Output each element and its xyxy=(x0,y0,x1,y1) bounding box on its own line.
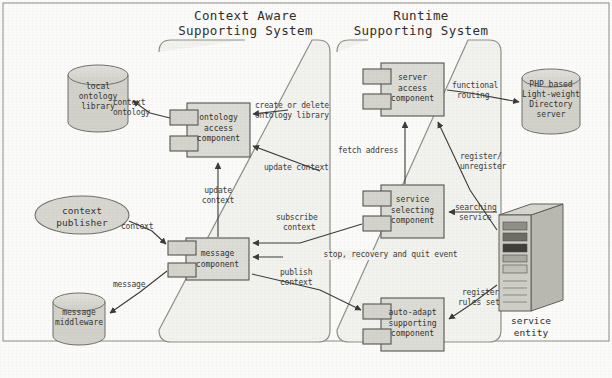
comp-line3: component xyxy=(391,94,434,103)
store-line2: Light-weight xyxy=(522,90,580,99)
store-line4: server xyxy=(537,110,566,119)
actor-context-publisher-label: contextpublisher xyxy=(40,205,124,229)
edge-label-create-or-delete-ontology-library: create or deleteontology library xyxy=(255,101,339,121)
comp-line2: access xyxy=(398,84,427,93)
edge-line1: create or delete xyxy=(255,101,329,110)
edge-line2: context xyxy=(280,278,312,287)
edge-line2: ontology library xyxy=(255,111,329,120)
edge-line1: stop, recovery and quit event xyxy=(324,250,458,259)
actor-line2: entity xyxy=(514,327,548,338)
edge-line1: subscribe xyxy=(276,213,318,222)
comp-line2: component xyxy=(196,260,239,269)
edge-label-context: context xyxy=(121,222,167,232)
edge-line1: functional xyxy=(452,81,498,90)
edge-label-update-context-vertical: updatecontext xyxy=(190,186,246,206)
edge-label-update-context-right: update context xyxy=(264,163,340,173)
edge-line2: ontology xyxy=(113,108,150,117)
edge-line2: rules set xyxy=(458,298,500,307)
comp-line3: component xyxy=(391,216,434,225)
edge-line1: update xyxy=(204,186,232,195)
edge-label-message: message xyxy=(113,280,159,290)
edge-line1: update context xyxy=(264,163,329,172)
panel-title-line1: Context Aware xyxy=(194,8,297,23)
comp-line1: message xyxy=(201,249,235,258)
actor-line1: service xyxy=(511,315,551,326)
comp-line2: selecting xyxy=(391,206,434,215)
panel-title-context-aware: Context AwareSupporting System xyxy=(158,8,333,38)
comp-line1: ontology xyxy=(199,113,238,122)
comp-line2: supporting xyxy=(388,319,436,328)
edge-label-fetch-address: fetch address xyxy=(338,146,412,156)
edge-line1: context xyxy=(113,98,145,107)
panel-title-runtime: RuntimeSupporting System xyxy=(336,8,506,38)
comp-line1: service xyxy=(396,195,430,204)
panel-title-line2: Supporting System xyxy=(354,23,489,38)
edge-line1: register xyxy=(458,288,499,298)
store-line3: library xyxy=(81,102,115,111)
store-line2: ontology xyxy=(79,92,118,101)
edge-line1: fetch address xyxy=(338,146,398,155)
comp-line1: auto-adapt xyxy=(388,308,436,317)
store-line1: PHP based xyxy=(529,80,572,89)
edge-label-searching-service: searchingservice xyxy=(455,203,511,223)
edge-line2: context xyxy=(276,223,315,233)
edge-label-register-unregister: register/unregister xyxy=(460,152,516,172)
edge-label-register-rules-set: registerrules set xyxy=(458,288,514,308)
panel-title-line2: Supporting System xyxy=(178,23,313,38)
comp-line3: component xyxy=(391,329,434,338)
component-server-access-label: serveraccesscomponent xyxy=(381,73,444,105)
edge-line2: unregister xyxy=(460,162,506,171)
architecture-diagram: Context AwareSupporting System RuntimeSu… xyxy=(0,0,612,378)
store-ldap-directory-server-label: PHP basedLight-weightDirectoryserver xyxy=(519,80,583,120)
edge-line2: routing xyxy=(452,91,489,101)
edge-label-stop-recovery-and-quit-event: stop, recovery and quit event xyxy=(283,250,498,260)
comp-line2: access xyxy=(204,124,233,133)
store-line1: message xyxy=(62,308,96,317)
component-ontology-access-label: ontologyaccesscomponent xyxy=(187,113,250,145)
actor-service-entity-label: serviceentity xyxy=(496,315,566,339)
edge-label-subscribe-context: subscribecontext xyxy=(276,213,330,233)
edge-label-publish-context: publishcontext xyxy=(280,268,330,288)
edge-line2: service xyxy=(455,213,491,223)
edge-label-functional-routing: functionalrouting xyxy=(452,81,512,101)
edge-line1: context xyxy=(121,222,153,231)
actor-line1: context xyxy=(62,205,102,216)
edge-line1: register/ xyxy=(460,152,502,161)
store-line2: middleware xyxy=(55,318,103,327)
edge-line2: context xyxy=(202,196,234,205)
component-auto-adapt-supporting-label: auto-adaptsupportingcomponent xyxy=(381,308,444,340)
edge-line1: message xyxy=(113,280,145,289)
comp-line3: component xyxy=(197,134,240,143)
component-message-label: messagecomponent xyxy=(186,249,249,270)
store-line1: local xyxy=(86,82,110,91)
edge-line1: searching xyxy=(455,203,497,212)
edge-line1: publish xyxy=(280,268,312,277)
comp-line1: server xyxy=(398,73,427,82)
edge-label-context-ontology: contextontology xyxy=(113,98,171,118)
store-line3: Directory xyxy=(529,100,572,109)
panel-title-line1: Runtime xyxy=(393,8,448,23)
actor-line2: publisher xyxy=(56,217,107,228)
store-message-middleware-label: messagemiddleware xyxy=(51,308,107,328)
component-service-selecting-label: serviceselectingcomponent xyxy=(381,195,444,227)
